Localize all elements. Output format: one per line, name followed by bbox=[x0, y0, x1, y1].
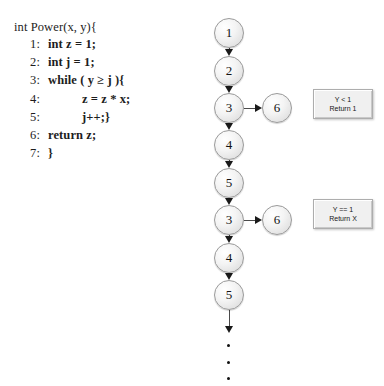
node-label: 4 bbox=[226, 137, 233, 153]
branch-node[interactable]: 6 bbox=[262, 205, 292, 235]
node-label: 3 bbox=[226, 100, 233, 116]
code-lines: 1:int z = 1;2:int j = 1;3:while ( y ≥ j … bbox=[14, 35, 184, 162]
code-line: 1:int z = 1; bbox=[14, 35, 184, 53]
code-line: 7:} bbox=[14, 144, 184, 162]
statement-node[interactable]: 3 bbox=[214, 205, 244, 235]
code-line-number: 7: bbox=[14, 144, 48, 162]
flow-edge-trailing bbox=[229, 310, 230, 326]
statement-node[interactable]: 3 bbox=[214, 93, 244, 123]
note-condition: Y == 1 bbox=[333, 205, 354, 215]
function-signature: int Power(x, y){ bbox=[14, 20, 184, 35]
code-line-text: } bbox=[48, 144, 53, 162]
node-label: 5 bbox=[226, 287, 233, 303]
branch-node[interactable]: 6 bbox=[262, 93, 292, 123]
statement-node[interactable]: 5 bbox=[214, 280, 244, 310]
code-line-number: 1: bbox=[14, 35, 48, 53]
code-line-text: int j = 1; bbox=[48, 53, 95, 71]
code-line-number: 3: bbox=[14, 71, 48, 89]
branch-edge-arrowhead bbox=[255, 216, 262, 224]
code-line-text: while ( y ≥ j ){ bbox=[48, 71, 124, 89]
condition-note[interactable]: Y < 1Return 1 bbox=[313, 89, 373, 119]
diagram-canvas: int Power(x, y){ 1:int z = 1;2:int j = 1… bbox=[0, 0, 384, 386]
flow-edge-arrowhead bbox=[225, 326, 233, 333]
note-result: Return 1 bbox=[330, 104, 357, 114]
flow-edge-arrowhead bbox=[225, 273, 233, 280]
note-condition: Y < 1 bbox=[335, 95, 351, 105]
statement-node[interactable]: 4 bbox=[214, 130, 244, 160]
flow-edge-arrowhead bbox=[225, 86, 233, 93]
code-line-text: z = z * x; bbox=[48, 90, 130, 108]
note-result: Return X bbox=[329, 214, 357, 224]
flow-edge-arrowhead bbox=[225, 236, 233, 243]
ellipsis-dot bbox=[227, 377, 230, 380]
code-line-number: 4: bbox=[14, 90, 48, 108]
ellipsis-dot bbox=[227, 361, 230, 364]
code-line: 5:j++;} bbox=[14, 108, 184, 126]
statement-node[interactable]: 4 bbox=[214, 243, 244, 273]
code-line-number: 6: bbox=[14, 126, 48, 144]
code-line: 4:z = z * x; bbox=[14, 90, 184, 108]
flow-edge-arrowhead bbox=[225, 49, 233, 56]
node-label: 1 bbox=[226, 25, 233, 41]
ellipsis-dot bbox=[227, 344, 230, 347]
code-listing: int Power(x, y){ 1:int z = 1;2:int j = 1… bbox=[14, 20, 184, 162]
code-line: 6:return z; bbox=[14, 126, 184, 144]
flow-edge-arrowhead bbox=[225, 198, 233, 205]
node-label: 2 bbox=[226, 63, 233, 79]
node-label: 5 bbox=[226, 175, 233, 191]
code-line-text: j++;} bbox=[48, 108, 110, 126]
node-label: 3 bbox=[226, 212, 233, 228]
node-label: 6 bbox=[274, 212, 281, 228]
flow-edge-arrowhead bbox=[225, 123, 233, 130]
code-line: 3:while ( y ≥ j ){ bbox=[14, 71, 184, 89]
condition-note[interactable]: Y == 1Return X bbox=[313, 199, 373, 229]
node-label: 4 bbox=[226, 250, 233, 266]
code-line-text: int z = 1; bbox=[48, 35, 96, 53]
code-line: 2:int j = 1; bbox=[14, 53, 184, 71]
code-line-number: 5: bbox=[14, 108, 48, 126]
code-line-number: 2: bbox=[14, 53, 48, 71]
statement-node[interactable]: 2 bbox=[214, 56, 244, 86]
statement-node[interactable]: 5 bbox=[214, 168, 244, 198]
node-label: 6 bbox=[274, 100, 281, 116]
flow-edge-arrowhead bbox=[225, 161, 233, 168]
code-line-text: return z; bbox=[48, 126, 96, 144]
statement-node[interactable]: 1 bbox=[214, 18, 244, 48]
branch-edge-arrowhead bbox=[255, 104, 262, 112]
